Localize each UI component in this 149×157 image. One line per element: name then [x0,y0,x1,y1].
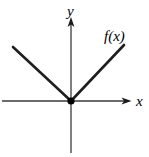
x-axis-label: x [135,93,143,109]
y-axis-label: y [65,3,74,19]
function-left-branch [13,47,71,101]
function-label: f(x) [104,28,125,45]
function-right-branch [71,45,124,101]
function-graph-figure: y x f(x) [0,0,149,157]
origin-vertex-dot [67,97,74,104]
graph-canvas: y x f(x) [0,0,149,157]
